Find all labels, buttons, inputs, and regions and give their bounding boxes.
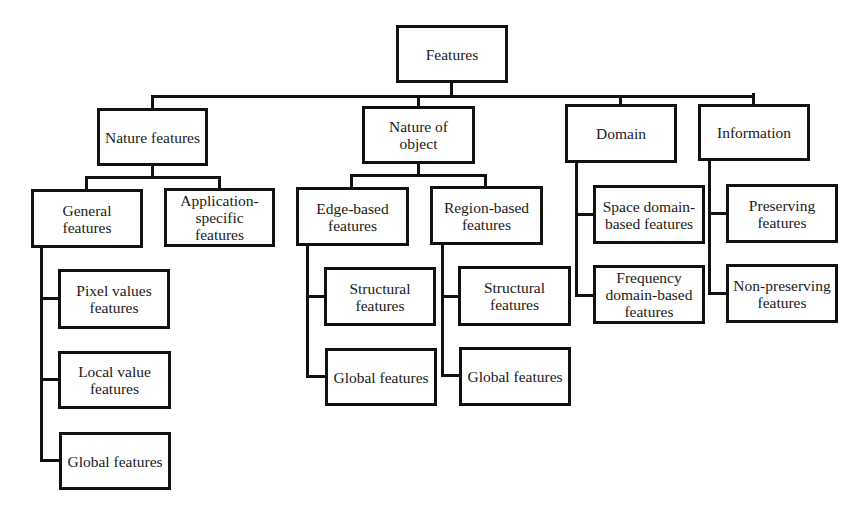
connector-information-spine <box>708 159 711 295</box>
node-features: Features <box>396 25 508 83</box>
node-global-features-edge: Global features <box>325 348 437 406</box>
node-edge-based-features: Edge-based features <box>296 187 409 246</box>
node-nature-features: Nature features <box>97 108 208 166</box>
node-global-features-general: Global features <box>59 432 171 490</box>
connector-to-structural-edge <box>306 295 325 298</box>
node-general-features: General features <box>31 189 143 248</box>
connector-domain-spine <box>575 161 578 297</box>
connector-to-global-general <box>40 459 60 462</box>
node-preserving-features: Preserving features <box>726 184 838 243</box>
node-nature-of-object: Nature of object <box>362 106 475 164</box>
node-frequency-domain-based-features: Frequency domain-based features <box>593 265 705 324</box>
node-structural-features-edge: Structural features <box>324 267 436 326</box>
connector-to-space-domain <box>575 213 594 216</box>
node-global-features-region: Global features <box>459 347 571 406</box>
connector-to-edge-based <box>350 174 353 188</box>
connector-top-bus <box>151 95 755 98</box>
node-structural-features-region: Structural features <box>458 266 571 326</box>
connector-to-pixel-values <box>40 297 59 300</box>
node-pixel-values-features: Pixel values features <box>58 269 170 329</box>
connector-nature-features-bus <box>85 176 221 179</box>
connector-to-nature-features <box>151 95 154 109</box>
node-local-value-features: Local value features <box>58 351 171 409</box>
connector-region-based-spine <box>441 243 444 377</box>
connector-to-frequency-domain <box>575 294 594 297</box>
node-information: Information <box>698 104 810 161</box>
node-domain: Domain <box>565 104 677 163</box>
node-non-preserving-features: Non-preserving features <box>726 264 838 323</box>
connector-to-structural-region <box>441 295 459 298</box>
connector-general-features-spine <box>40 246 43 462</box>
connector-edge-based-spine <box>306 244 309 378</box>
connector-to-preserving <box>708 212 727 215</box>
connector-nature-of-object-bus <box>350 174 487 177</box>
node-region-based-features: Region-based features <box>430 186 543 245</box>
feature-taxonomy-diagram: Features Nature features Nature of objec… <box>0 0 868 513</box>
connector-to-global-region <box>441 374 460 377</box>
connector-to-global-edge <box>306 375 326 378</box>
node-space-domain-based-features: Space domain- based features <box>593 185 705 244</box>
connector-to-general-features <box>85 176 88 190</box>
connector-to-local-value <box>40 378 59 381</box>
node-application-specific-features: Application- specific features <box>164 188 275 247</box>
connector-to-non-preserving <box>708 292 727 295</box>
